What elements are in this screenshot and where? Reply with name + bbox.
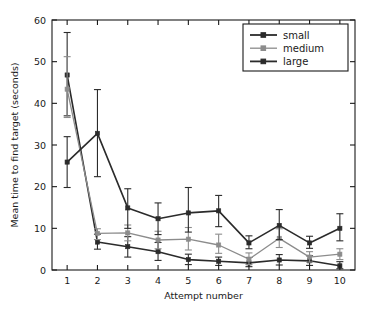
x-tick-label: 2 bbox=[94, 275, 100, 286]
data-point-marker bbox=[217, 209, 221, 213]
data-point-marker bbox=[247, 241, 251, 245]
series-medium bbox=[64, 57, 344, 265]
data-point-marker bbox=[156, 250, 160, 254]
legend-label-large: large bbox=[283, 56, 308, 67]
data-point-marker bbox=[186, 257, 190, 261]
x-axis-title: Attempt number bbox=[164, 290, 243, 301]
legend-label-small: small bbox=[283, 30, 310, 41]
x-tick-label: 5 bbox=[185, 275, 191, 286]
x-tick-label: 9 bbox=[307, 275, 313, 286]
data-point-marker bbox=[217, 243, 221, 247]
y-tick-label: 10 bbox=[34, 223, 46, 234]
data-point-marker bbox=[277, 258, 281, 262]
data-point-marker bbox=[95, 240, 99, 244]
data-point-marker bbox=[95, 131, 99, 135]
data-point-marker bbox=[186, 237, 190, 241]
legend-label-medium: medium bbox=[283, 43, 324, 54]
y-tick-label: 20 bbox=[34, 181, 46, 192]
data-point-marker bbox=[95, 231, 99, 235]
y-tick-label: 60 bbox=[34, 15, 46, 26]
y-tick-label: 30 bbox=[34, 140, 46, 151]
error-bar bbox=[185, 188, 192, 233]
data-point-marker bbox=[277, 223, 281, 227]
data-point-marker bbox=[217, 259, 221, 263]
data-point-marker bbox=[126, 231, 130, 235]
data-point-marker bbox=[65, 87, 69, 91]
y-axis-title: Mean time to find target (seconds) bbox=[9, 62, 20, 227]
series-line-medium bbox=[67, 89, 340, 259]
legend: smallmediumlarge bbox=[243, 24, 348, 71]
data-point-marker bbox=[156, 238, 160, 242]
data-point-marker bbox=[247, 257, 251, 261]
y-tick-label: 50 bbox=[34, 56, 46, 67]
y-tick-label: 0 bbox=[40, 265, 46, 276]
x-tick-label: 1 bbox=[64, 275, 70, 286]
x-tick-label: 8 bbox=[276, 275, 282, 286]
x-tick-label: 7 bbox=[246, 275, 252, 286]
data-point-marker bbox=[65, 160, 69, 164]
data-point-marker bbox=[307, 255, 311, 259]
chart-plot-area: 010203040506012345678910Attempt numberMe… bbox=[0, 0, 372, 319]
x-tick-label: 4 bbox=[155, 275, 161, 286]
data-point-marker bbox=[307, 241, 311, 245]
data-point-marker bbox=[156, 217, 160, 221]
y-tick-label: 40 bbox=[34, 98, 46, 109]
x-tick-label: 3 bbox=[125, 275, 131, 286]
line-chart-with-error-bars: 010203040506012345678910Attempt numberMe… bbox=[0, 0, 372, 319]
data-point-marker bbox=[338, 252, 342, 256]
data-point-marker bbox=[126, 206, 130, 210]
data-point-marker bbox=[186, 211, 190, 215]
series-line-large bbox=[67, 133, 340, 243]
series-large bbox=[64, 90, 344, 249]
figure-container: 010203040506012345678910Attempt numberMe… bbox=[0, 0, 372, 319]
x-tick-label: 6 bbox=[216, 275, 222, 286]
data-point-marker bbox=[338, 226, 342, 230]
data-point-marker bbox=[126, 245, 130, 249]
x-tick-label: 10 bbox=[334, 275, 346, 286]
